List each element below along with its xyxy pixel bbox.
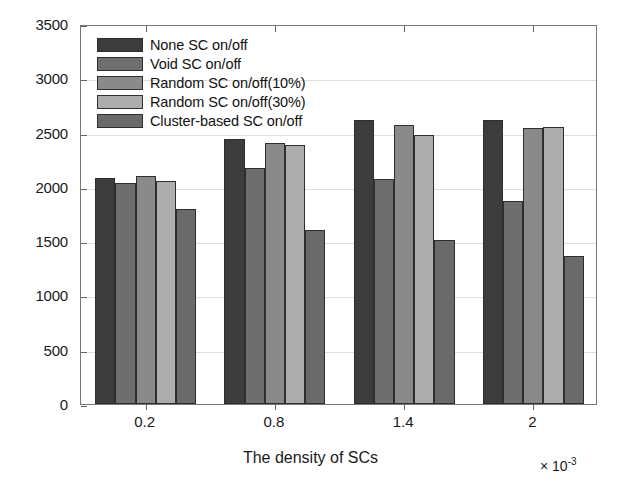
legend: None SC on/offVoid SC on/offRandom SC on… [97,36,306,129]
legend-item: Cluster-based SC on/off [97,112,306,129]
bar [354,120,374,404]
legend-swatch [97,114,143,128]
bar [115,183,135,404]
bar [394,125,414,404]
y-tick-mark [81,26,87,27]
bar [285,145,305,404]
x-axis-exponent: × 10-3 [540,456,577,474]
x-tick-label: 0.8 [234,413,314,430]
y-tick-mark [81,406,87,407]
y-tick-label: 3500 [8,17,68,32]
bar [176,209,196,404]
bar [543,127,563,404]
legend-label: Random SC on/off(10%) [150,75,306,91]
gridline [81,135,596,136]
legend-label: None SC on/off [150,37,247,53]
bar [305,230,325,404]
x-tick-label: 0.2 [105,413,185,430]
x-tick-label: 1.4 [363,413,443,430]
bar [564,256,584,404]
legend-swatch [97,57,143,71]
legend-swatch [97,38,143,52]
legend-label: Void SC on/off [150,56,241,72]
legend-swatch [97,76,143,90]
y-tick-mark [81,243,87,244]
y-tick-label: 2500 [8,126,68,141]
x-tick-mark [275,404,276,410]
bar [523,128,543,404]
x-tick-mark [275,26,276,32]
y-tick-label: 1500 [8,234,68,249]
bar [224,139,244,404]
x-tick-mark [146,404,147,410]
bar [95,178,115,404]
x-tick-label: 2 [492,413,572,430]
bar [265,143,285,404]
y-tick-label: 2000 [8,180,68,195]
legend-item: Void SC on/off [97,55,306,72]
bar [414,135,434,404]
bar [374,179,394,404]
y-tick-mark [81,80,87,81]
plot-area: None SC on/offVoid SC on/offRandom SC on… [80,25,597,405]
x-axis-title: The density of SCs [0,449,621,467]
legend-label: Cluster-based SC on/off [150,113,302,129]
y-tick-mark [81,189,87,190]
x-tick-mark [533,26,534,32]
y-tick-label: 500 [8,343,68,358]
y-tick-label: 1000 [8,288,68,303]
legend-label: Random SC on/off(30%) [150,94,306,110]
exponent-power: -3 [568,456,577,467]
bar [136,176,156,404]
legend-item: None SC on/off [97,36,306,53]
legend-item: Random SC on/off(10%) [97,74,306,91]
x-tick-mark [404,26,405,32]
legend-item: Random SC on/off(30%) [97,93,306,110]
x-tick-mark [404,404,405,410]
y-tick-label: 3000 [8,71,68,86]
x-tick-mark [146,26,147,32]
bar [245,168,265,404]
bar [156,181,176,404]
bar [483,120,503,404]
figure-canvas: RB Cost 0500100015002000250030003500 Non… [0,0,621,498]
y-tick-label: 0 [8,397,68,412]
legend-swatch [97,95,143,109]
y-tick-mark [81,352,87,353]
exponent-base: × 10 [540,458,568,474]
x-tick-mark [533,404,534,410]
bar [503,201,523,404]
bar [434,240,454,404]
y-tick-mark [81,297,87,298]
y-tick-mark [81,135,87,136]
